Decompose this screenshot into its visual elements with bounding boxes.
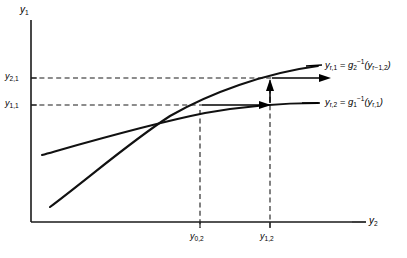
y-tick-label-y11: y1,1: [5, 99, 19, 108]
x-tick-label-y12: y1,2: [260, 232, 274, 241]
flow-arrow-right-upper-head: [319, 74, 331, 82]
figure-root: y1 y2 y2,1 y1,1 y0,2 y1,2 yr,1 = g2−1(yr…: [0, 0, 407, 258]
x-tick-label-y02: y0,2: [190, 232, 204, 241]
figure-canvas: [0, 0, 407, 258]
curve-upper-path: [50, 66, 318, 207]
y-tick-label-y21: y2,1: [5, 72, 19, 81]
flow-arrow-up-head: [266, 79, 274, 91]
flow-arrow-right-lower-head: [259, 101, 271, 109]
leader-line-upper: [306, 65, 322, 66]
curve-label-upper: yr,1 = g2−1(yr−1,2): [325, 60, 391, 70]
y-axis-title: y1: [20, 5, 29, 15]
curve-label-lower: yr,2 = g1−1(yr,1): [325, 97, 383, 107]
x-axis-title: y2: [369, 216, 378, 226]
